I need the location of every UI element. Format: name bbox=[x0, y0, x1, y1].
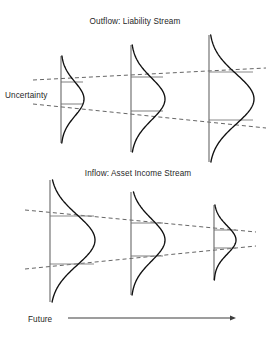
panel-outflow-title: Outflow: Liability Stream bbox=[90, 17, 181, 26]
panel-inflow-title: Inflow: Asset Income Stream bbox=[85, 169, 192, 178]
uncertainty-label: Uncertainty bbox=[5, 91, 48, 100]
future-label: Future bbox=[28, 315, 53, 324]
uncertainty-cone-figure: Outflow: Liability Stream Uncertainty In… bbox=[0, 0, 271, 337]
